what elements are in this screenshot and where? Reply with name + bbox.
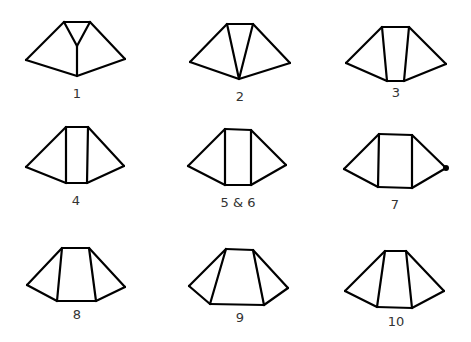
figure-edge	[253, 250, 264, 305]
figure-edge	[190, 24, 227, 62]
figure-edge	[190, 62, 239, 79]
figure-edge	[27, 248, 62, 285]
figure-edge	[87, 127, 88, 183]
figure-1: 1	[26, 22, 125, 101]
figure-edge	[90, 22, 125, 59]
figure-edge	[412, 135, 446, 168]
figure-edge	[225, 129, 251, 130]
figure-label: 5 & 6	[221, 195, 256, 210]
figure-label: 2	[236, 89, 244, 104]
figure-edge	[378, 187, 412, 188]
figure-edge	[345, 251, 385, 291]
figure-edge	[26, 22, 64, 60]
figure-4: 4	[26, 127, 124, 208]
figure-2: 2	[190, 24, 290, 104]
figure-label: 1	[73, 86, 81, 101]
figure-edge	[77, 22, 90, 46]
vertex-dot	[443, 165, 449, 171]
figure-edge	[253, 250, 288, 288]
figure-label: 9	[236, 310, 244, 325]
figure-edge	[409, 27, 446, 64]
figure-edge	[88, 127, 124, 166]
figure-edge	[253, 24, 290, 63]
figure-edge	[64, 22, 77, 46]
figure-7: 8	[27, 248, 125, 322]
figure-edge	[346, 27, 382, 63]
figure-edge	[378, 134, 379, 187]
figure-edge	[406, 251, 444, 291]
figure-edge	[189, 286, 210, 304]
figure-edge	[87, 166, 124, 183]
figure-edge	[345, 291, 377, 307]
figure-edge	[344, 169, 378, 187]
figure-6: 7	[344, 134, 449, 212]
figure-edge	[346, 63, 387, 81]
figure-edge	[251, 130, 286, 165]
figure-5: 5 & 6	[188, 129, 286, 210]
figure-label: 4	[72, 193, 80, 208]
figure-diagram: 12345 & 678910	[0, 0, 471, 342]
figure-edge	[26, 60, 77, 76]
figure-edge	[412, 168, 446, 188]
figure-edge	[96, 287, 125, 301]
figure-edge	[226, 249, 253, 250]
figure-edge	[27, 285, 57, 301]
figure-edge	[210, 304, 264, 305]
figure-edge	[26, 127, 66, 167]
figure-label: 3	[392, 85, 400, 100]
figure-edge	[26, 167, 66, 183]
figure-label: 7	[391, 197, 399, 212]
figure-9: 10	[345, 251, 444, 329]
figure-edge	[57, 248, 62, 301]
figure-edge	[188, 129, 225, 166]
figure-label: 8	[73, 307, 81, 322]
figure-edge	[239, 63, 290, 79]
figure-edge	[406, 251, 412, 308]
figure-edge	[188, 166, 225, 185]
figure-edge	[344, 134, 379, 169]
figure-edge	[382, 27, 387, 81]
figure-edge	[251, 165, 286, 185]
figure-edge	[239, 24, 253, 79]
figure-3: 3	[346, 27, 446, 100]
figure-edge	[227, 24, 239, 79]
figure-edge	[377, 251, 385, 307]
figure-edge	[404, 27, 409, 81]
figure-edge	[264, 288, 288, 305]
figure-edge	[412, 291, 444, 308]
figure-edge	[77, 59, 125, 76]
figure-edge	[379, 134, 412, 135]
figure-edge	[404, 64, 446, 81]
figure-edge	[377, 307, 412, 308]
figure-8: 9	[189, 249, 288, 325]
figure-label: 10	[388, 314, 405, 329]
